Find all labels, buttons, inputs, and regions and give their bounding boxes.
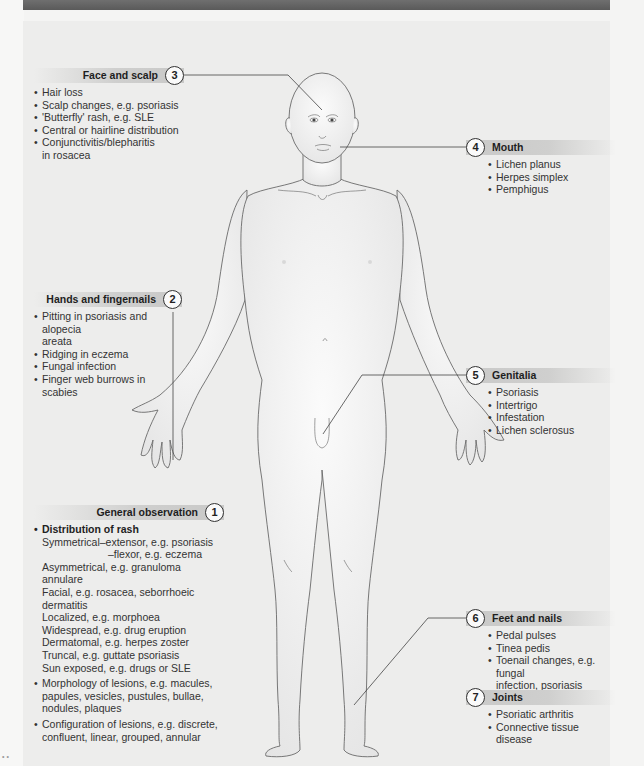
finding-list: Psoriasis Intertrigo Infestation Lichen … [466, 386, 616, 436]
list-item: Intertrigo [488, 399, 616, 412]
list-item: Toenail changes, e.g. fungal [488, 654, 616, 679]
list-item: Hair loss [34, 86, 184, 99]
list-item: Lichen planus [488, 158, 616, 171]
list-item: Dermatomal, e.g. herpes zoster [34, 636, 224, 649]
list-item: Psoriasis [488, 386, 616, 399]
callout-number-badge: 1 [205, 503, 224, 522]
section-title: Mouth [492, 141, 524, 153]
section-genitalia: 5 Genitalia Psoriasis Intertrigo Infesta… [466, 368, 616, 436]
list-heading-distribution: Distribution of rash [34, 523, 224, 536]
callout-number-badge: 3 [165, 66, 184, 85]
section-title: Genitalia [492, 369, 536, 381]
page-corner-mark: • • [2, 753, 9, 760]
list-item: Connective tissue disease [488, 721, 616, 746]
list-item: Truncal, e.g. guttate psoriasis [34, 649, 224, 662]
list-item: Sun exposed, e.g. drugs or SLE [34, 662, 224, 675]
finding-list: Distribution of rash Symmetrical–extenso… [34, 523, 224, 743]
list-item: Psoriatic arthritis [488, 708, 616, 721]
section-header: 4 Mouth [466, 140, 616, 155]
section-general-observation: General observation 1 Distribution of ra… [34, 505, 224, 743]
list-item: Conjunctivitis/blepharitis [34, 136, 184, 149]
list-item: Central or hairline distribution [34, 124, 184, 137]
list-item-continuation: papules, vesicles, pustules, bullae, [34, 690, 224, 703]
section-header: Face and scalp 3 [34, 68, 184, 83]
list-item: Pedal pulses [488, 629, 616, 642]
list-item: Localized, e.g. morphoea [34, 611, 224, 624]
section-header: 7 Joints [466, 690, 616, 705]
section-title: Joints [492, 691, 523, 703]
list-item: Pemphigus [488, 183, 616, 196]
callout-number-badge: 6 [466, 609, 485, 628]
finding-list: Lichen planus Herpes simplex Pemphigus [466, 158, 616, 196]
list-item-continuation: areata [34, 335, 182, 348]
callout-number-badge: 5 [466, 366, 485, 385]
list-item: Ridging in eczema [34, 348, 182, 361]
list-item: Herpes simplex [488, 171, 616, 184]
list-item-configuration: Configuration of lesions, e.g. discrete, [34, 718, 224, 731]
section-mouth: 4 Mouth Lichen planus Herpes simplex Pem… [466, 140, 616, 196]
list-item: Facial, e.g. rosacea, seborrhoeic [34, 586, 224, 599]
section-header: 6 Feet and nails [466, 611, 616, 626]
list-item: Pitting in psoriasis and alopecia [34, 310, 182, 335]
list-item-continuation: in rosacea [34, 149, 184, 162]
list-item: Infestation [488, 411, 616, 424]
section-title: Feet and nails [492, 612, 562, 624]
section-joints: 7 Joints Psoriatic arthritis Connective … [466, 690, 616, 746]
section-header: Hands and fingernails 2 [34, 292, 182, 307]
finding-list: Pedal pulses Tinea pedis Toenail changes… [466, 629, 616, 692]
section-header: General observation 1 [34, 505, 224, 520]
section-feet-and-nails: 6 Feet and nails Pedal pulses Tinea pedi… [466, 611, 616, 692]
list-item-morphology: Morphology of lesions, e.g. macules, [34, 677, 224, 690]
list-item: –flexor, e.g. eczema [34, 548, 224, 561]
list-item: Widespread, e.g. drug eruption [34, 624, 224, 637]
callout-number-badge: 4 [466, 138, 485, 157]
list-item: Scalp changes, e.g. psoriasis [34, 99, 184, 112]
callout-number-badge: 7 [466, 688, 485, 707]
list-item: Tinea pedis [488, 642, 616, 655]
list-item: Lichen sclerosus [488, 424, 616, 437]
list-item: 'Butterfly' rash, e.g. SLE [34, 111, 184, 124]
finding-list: Pitting in psoriasis and alopecia areata… [34, 310, 182, 398]
callout-number-badge: 2 [163, 290, 182, 309]
section-hands-and-fingernails: Hands and fingernails 2 Pitting in psori… [34, 292, 182, 398]
list-item-continuation: nodules, plaques [34, 702, 224, 715]
list-item: Finger web burrows in scabies [34, 373, 182, 398]
list-item-continuation: dermatitis [34, 599, 224, 612]
section-face-and-scalp: Face and scalp 3 Hair loss Scalp changes… [34, 68, 184, 162]
section-title: General observation [96, 506, 198, 518]
list-item-continuation: confluent, linear, grouped, annular [34, 731, 224, 744]
finding-list: Hair loss Scalp changes, e.g. psoriasis … [34, 86, 184, 162]
list-item: Symmetrical–extensor, e.g. psoriasis [34, 536, 224, 549]
list-item: Fungal infection [34, 360, 182, 373]
section-title: Face and scalp [83, 69, 158, 81]
section-title: Hands and fingernails [46, 293, 156, 305]
section-header: 5 Genitalia [466, 368, 616, 383]
finding-list: Psoriatic arthritis Connective tissue di… [466, 708, 616, 746]
list-item: Asymmetrical, e.g. granuloma annulare [34, 561, 224, 586]
